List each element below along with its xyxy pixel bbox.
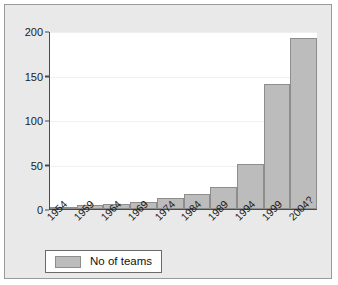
legend-label-no-of-teams: No of teams [90,256,152,268]
y-axis-tick: 150 [25,71,49,82]
plot-area [49,32,317,210]
x-axis-tick: 1974 [156,210,183,252]
x-axis-tick: 2004? [290,210,317,252]
y-axis-tick-label: 200 [25,27,43,38]
chart-figure: 050100150200 195419591964196919741984198… [4,4,332,279]
bar [264,84,291,209]
y-axis: 050100150200 [5,32,49,210]
y-axis-tick: 50 [31,160,49,171]
y-axis-tick-label: 100 [25,116,43,127]
bar-slot [210,32,237,209]
x-axis-tick: 1999 [263,210,290,252]
legend-swatch-no-of-teams [55,256,81,268]
y-axis-tick-label: 50 [31,160,43,171]
x-axis-tick: 1984 [183,210,210,252]
bar-slot [157,32,184,209]
x-axis-tick: 1969 [129,210,156,252]
legend: No of teams [45,250,162,273]
bar-series [50,32,317,209]
bar-slot [290,32,317,209]
x-axis-tick: 1994 [237,210,264,252]
bar-slot [130,32,157,209]
x-axis-tick: 1989 [210,210,237,252]
bar-slot [50,32,77,209]
x-axis-tick: 1964 [103,210,130,252]
x-axis-tick: 1954 [49,210,76,252]
y-axis-tick: 100 [25,116,49,127]
bar-slot [237,32,264,209]
x-axis-tick: 1959 [76,210,103,252]
bar-slot [77,32,104,209]
y-axis-tick-label: 0 [37,205,43,216]
bar-slot [184,32,211,209]
y-axis-tick-label: 150 [25,71,43,82]
bar [290,38,317,209]
bar-slot [103,32,130,209]
y-axis-tick: 200 [25,27,49,38]
bar-slot [264,32,291,209]
x-axis: 1954195919641969197419841989199419992004… [49,210,317,252]
